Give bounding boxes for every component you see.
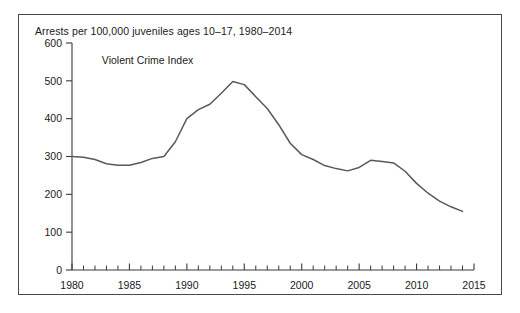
y-tick-label: 300 — [44, 150, 62, 162]
chart-figure: Arrests per 100,000 juveniles ages 10–17… — [18, 14, 502, 295]
y-tick-label: 100 — [44, 226, 62, 238]
x-tick-label: 2000 — [290, 279, 314, 291]
y-tick-label: 0 — [56, 264, 62, 276]
x-tick-label: 2005 — [347, 279, 371, 291]
y-axis-tick-labels: 600 500 400 300 200 100 0 — [44, 37, 62, 276]
violent-crime-index-line — [72, 82, 463, 212]
y-tick-label: 500 — [44, 75, 62, 87]
x-axis-tick-labels: 1980 1985 1990 1995 2000 2005 2010 2015 — [60, 279, 486, 291]
x-tick-label: 2010 — [405, 279, 429, 291]
x-axis-major-ticks — [72, 264, 474, 271]
x-tick-label: 2015 — [462, 279, 486, 291]
x-tick-label: 1980 — [60, 279, 84, 291]
line-chart-plot: 600 500 400 300 200 100 0 1980 1985 1990… — [19, 15, 502, 295]
x-tick-label: 1995 — [233, 279, 257, 291]
x-axis-minor-ticks — [83, 266, 462, 271]
y-axis-ticks — [66, 43, 72, 270]
y-tick-label: 600 — [44, 37, 62, 49]
y-tick-label: 400 — [44, 112, 62, 124]
series-label-violent-crime-index: Violent Crime Index — [102, 54, 194, 66]
y-tick-label: 200 — [44, 188, 62, 200]
x-tick-label: 1985 — [118, 279, 142, 291]
x-tick-label: 1990 — [175, 279, 199, 291]
